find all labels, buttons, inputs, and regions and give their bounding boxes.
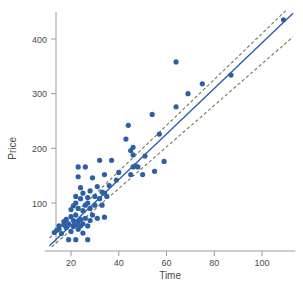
data-point	[130, 145, 135, 150]
data-point	[80, 230, 85, 235]
data-point	[152, 169, 157, 174]
data-point	[126, 123, 131, 128]
data-point	[128, 172, 133, 177]
data-point	[78, 185, 83, 190]
data-point	[92, 203, 97, 208]
data-point	[114, 177, 119, 182]
x-tick-label-100: 100	[254, 258, 269, 268]
data-point	[281, 17, 286, 22]
data-point	[157, 132, 162, 137]
data-point	[59, 231, 64, 236]
x-axis-title: Time	[159, 270, 181, 281]
data-point	[78, 217, 83, 222]
data-point	[85, 237, 90, 242]
data-point	[76, 164, 81, 169]
data-point	[185, 91, 190, 96]
data-point	[85, 200, 90, 205]
y-tick-label-100: 100	[32, 199, 47, 209]
data-point	[99, 203, 104, 208]
data-point	[85, 195, 90, 200]
data-point	[66, 237, 71, 242]
data-point	[173, 59, 178, 64]
data-point	[102, 172, 107, 177]
least-squares-fit	[50, 13, 294, 245]
data-point	[73, 212, 78, 217]
data-point	[76, 206, 81, 211]
x-tick-label-60: 60	[161, 258, 171, 268]
data-point	[73, 200, 78, 205]
data-point	[104, 194, 109, 199]
data-point	[95, 184, 100, 189]
data-point	[66, 221, 71, 226]
data-point	[85, 223, 90, 228]
data-point	[64, 217, 69, 222]
data-point	[88, 206, 93, 211]
data-point	[80, 191, 85, 196]
scatter-plot-figure: 20406080100100200300400 TimePrice	[0, 0, 303, 285]
x-tick-label-20: 20	[66, 258, 76, 268]
data-point	[162, 159, 167, 164]
y-tick-label-300: 300	[32, 89, 47, 99]
data-point	[116, 170, 121, 175]
data-point	[78, 196, 83, 201]
data-point	[90, 212, 95, 217]
data-point	[73, 237, 78, 242]
data-point	[83, 164, 88, 169]
data-point	[102, 215, 107, 220]
data-points	[52, 17, 286, 242]
lower-band	[52, 37, 293, 247]
data-point	[80, 221, 85, 226]
y-tick-label-400: 400	[32, 35, 47, 45]
data-point	[107, 183, 112, 188]
data-point	[90, 175, 95, 180]
data-point	[71, 218, 76, 223]
data-point	[92, 194, 97, 199]
data-point	[109, 158, 114, 163]
data-point	[56, 223, 61, 228]
data-point	[88, 218, 93, 223]
data-point	[140, 172, 145, 177]
data-point	[95, 216, 100, 221]
data-point	[88, 188, 93, 193]
data-point	[150, 112, 155, 117]
data-point	[68, 229, 73, 234]
x-tick-label-80: 80	[209, 258, 219, 268]
data-point	[80, 208, 85, 213]
y-tick-label-200: 200	[32, 144, 47, 154]
plot-canvas: 20406080100100200300400 TimePrice	[0, 0, 303, 285]
data-point	[73, 194, 78, 199]
regression-line	[50, 13, 294, 245]
data-point	[97, 196, 102, 201]
data-point	[130, 152, 135, 157]
data-point	[142, 153, 147, 158]
data-point	[97, 158, 102, 163]
data-point	[228, 72, 233, 77]
data-point	[76, 174, 81, 179]
y-axis-title: Price	[7, 137, 18, 160]
x-tick-label-40: 40	[114, 258, 124, 268]
data-point	[83, 216, 88, 221]
data-point	[123, 136, 128, 141]
data-point	[173, 104, 178, 109]
axis-labels: TimePrice	[7, 137, 181, 281]
data-point	[200, 81, 205, 86]
data-point	[135, 164, 140, 169]
